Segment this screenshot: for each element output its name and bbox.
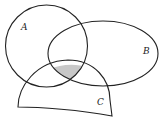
set-a-circle — [6, 5, 88, 87]
label-b: B — [143, 46, 150, 56]
label-c: C — [97, 97, 104, 107]
label-a: A — [21, 22, 28, 32]
venn-shapes — [0, 0, 164, 122]
shaded-intersection — [18, 65, 112, 116]
venn-diagram: A B C — [0, 0, 164, 122]
set-b-ellipse — [48, 21, 158, 86]
